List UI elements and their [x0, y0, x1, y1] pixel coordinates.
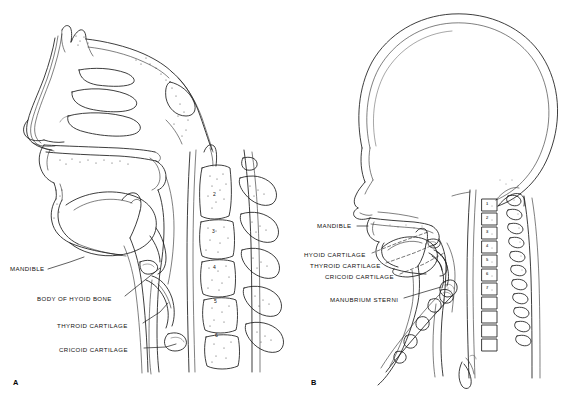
- panel-b-vertebra-number-c3: 3: [486, 230, 489, 234]
- panel-b-label-hyoid-cartilage: HYOID CARTILAGE: [304, 252, 366, 258]
- panel-a-vertebra-number-c3: 3: [212, 229, 215, 234]
- panel-a-label-mandible: MANDIBLE: [10, 266, 45, 272]
- panel-b-vertebra-number-c2: 2: [486, 216, 489, 220]
- panel-b-vertebra-number-c1: 1: [486, 202, 489, 206]
- panel-b-vertebra-number-c6: 6: [486, 272, 489, 276]
- panel-letter-b: B: [311, 379, 317, 386]
- panel-a-vertebra-number-c2: 2: [213, 192, 216, 197]
- panel-letter-a: A: [13, 379, 19, 386]
- panel-b-label-mandible: MANDIBLE: [317, 223, 352, 229]
- panel-b-vertebra-number-c7: 7: [486, 286, 489, 290]
- panel-b-vertebra-number-c4: 4: [486, 244, 489, 248]
- panel-a-label-thyroid-cartilage: THYROID CARTILAGE: [57, 323, 128, 329]
- panel-a-vertebra-number-c6: 6: [215, 333, 218, 338]
- panel-a-vertebra-number-c4: 4: [213, 265, 216, 270]
- figure-artwork: [0, 0, 577, 397]
- panel-a-label-cricoid-cartilage: CRICOID CARTILAGE: [59, 347, 128, 353]
- panel-b-artwork: [354, 14, 558, 389]
- panel-b-label-manubrium-sterni: MANUBRIUM STERNI: [330, 297, 398, 303]
- panel-a-vertebra-number-c5: 5: [214, 299, 217, 304]
- panel-b-vertebra-number-c5: 5: [486, 258, 489, 262]
- anatomy-figure: MANDIBLE BODY OF HYOID BONE THYROID CART…: [0, 0, 577, 397]
- panel-b-label-cricoid-cartilage: CRICOID CARTILAGE: [325, 274, 394, 280]
- panel-a-label-body-of-hyoid-bone: BODY OF HYOID BONE: [37, 296, 112, 302]
- panel-b-label-thyroid-cartilage: THYROID CARTILAGE: [310, 263, 381, 269]
